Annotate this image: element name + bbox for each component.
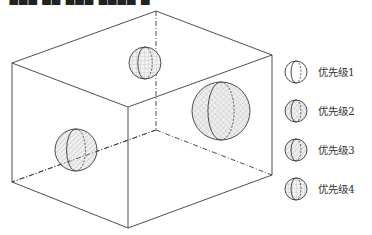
legend-sphere-priority-2-icon	[285, 100, 307, 122]
legend-label-priority-4: 优先级4	[318, 181, 355, 196]
legend-sphere-priority-4-icon	[285, 178, 307, 200]
edge-bottom-front-left	[12, 182, 128, 228]
sphere-outline-icon	[129, 47, 161, 79]
edge-top-back-right	[156, 11, 272, 55]
legend-sphere-priority-3-icon	[285, 139, 307, 161]
legend-label-priority-3: 优先级3	[318, 142, 355, 157]
sphere-outline-icon	[285, 61, 307, 83]
left-sphere	[55, 129, 97, 171]
diagram-canvas	[0, 0, 372, 235]
legend-sphere-priority-1-icon	[285, 61, 307, 83]
legend	[285, 61, 307, 200]
sphere-outline-icon	[285, 178, 307, 200]
edge-bottom-front-right	[128, 175, 272, 228]
legend-label-priority-1: 优先级1	[318, 64, 355, 79]
sphere-outline-icon	[192, 82, 250, 140]
sphere-outline-icon	[55, 129, 97, 171]
sphere-outline-icon	[285, 100, 307, 122]
edge-top-front-left	[12, 63, 128, 107]
box-with-spheres-diagram: ▀▆▇▅ ▆▇ ▅▆▇ ▇▆▅▇ ▄ 优先级1 优先级2 优先级3 优先级4	[0, 0, 372, 235]
sphere-outline-icon	[285, 139, 307, 161]
legend-label-priority-2: 优先级2	[318, 103, 355, 118]
right-sphere	[192, 82, 250, 140]
cropped-caption-text: ▀▆▇▅ ▆▇ ▅▆▇ ▇▆▅▇ ▄	[0, 0, 200, 5]
top-sphere	[129, 47, 161, 79]
spheres	[12, 47, 250, 182]
